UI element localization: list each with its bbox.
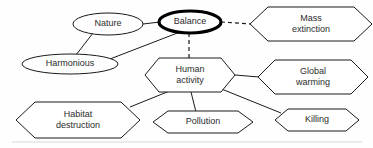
node-label-global-warming: Global: [300, 66, 326, 76]
edge-balance-mass-extinction: [221, 22, 251, 24]
edge-human-activity-killing: [219, 88, 281, 113]
edge-human-activity-habitat-destruction: [130, 90, 172, 107]
node-killing[interactable]: Killing: [275, 109, 359, 131]
edge-nature-harmonious: [76, 33, 93, 55]
nodes-layer: NatureBalanceHarmoniousMassextinctionHum…: [16, 7, 372, 138]
node-label-global-warming: warming: [295, 77, 330, 87]
node-label-mass-extinction: Mass: [300, 13, 322, 23]
edge-human-activity-global-warming: [235, 75, 259, 77]
node-mass-extinction[interactable]: Massextinction: [250, 7, 372, 41]
node-label-mass-extinction: extinction: [292, 24, 330, 34]
node-nature[interactable]: Nature: [73, 13, 143, 35]
concept-map: NatureBalanceHarmoniousMassextinctionHum…: [0, 0, 373, 148]
node-global-warming[interactable]: Globalwarming: [258, 60, 368, 94]
node-label-human-activity: activity: [176, 75, 204, 85]
node-label-nature: Nature: [94, 18, 121, 28]
node-label-killing: Killing: [305, 114, 329, 124]
node-label-habitat-destruction: Habitat: [64, 109, 93, 119]
edge-human-activity-pollution: [191, 92, 196, 112]
node-label-harmonious: Harmonious: [46, 58, 95, 68]
node-balance[interactable]: Balance: [159, 11, 221, 33]
node-label-pollution: Pollution: [186, 116, 221, 126]
diagram-canvas: NatureBalanceHarmoniousMassextinctionHum…: [0, 0, 373, 148]
node-label-human-activity: Human: [175, 64, 204, 74]
node-label-balance: Balance: [174, 16, 207, 26]
node-label-habitat-destruction: destruction: [56, 120, 100, 130]
node-pollution[interactable]: Pollution: [153, 111, 253, 133]
edge-harmonious-balance: [110, 32, 180, 59]
node-human-activity[interactable]: Humanactivity: [145, 58, 235, 92]
node-harmonious[interactable]: Harmonious: [22, 54, 118, 74]
node-habitat-destruction[interactable]: Habitatdestruction: [16, 102, 140, 138]
